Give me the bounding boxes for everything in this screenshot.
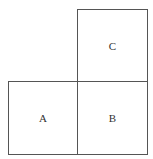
square-b-label: B — [109, 112, 116, 124]
square-c-label: C — [109, 40, 116, 52]
square-c: C — [77, 9, 148, 82]
square-a-label: A — [39, 112, 47, 124]
square-b: B — [77, 81, 148, 155]
square-a: A — [8, 81, 78, 155]
